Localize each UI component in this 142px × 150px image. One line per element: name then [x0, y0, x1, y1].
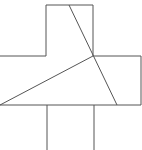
diagonal-bottom-left-to-center [0, 56, 93, 105]
cross-outline [0, 5, 141, 105]
geometry-diagram [0, 0, 142, 150]
